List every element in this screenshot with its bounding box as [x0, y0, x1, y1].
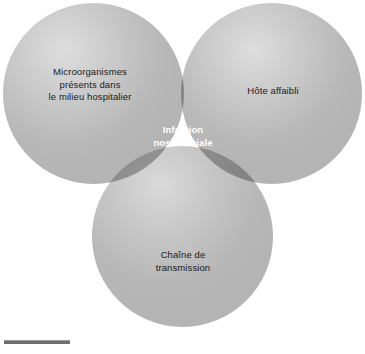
venn-diagram-figure: Microorganismes présents dans le milieu …	[0, 0, 365, 354]
figure-caption-rule	[4, 340, 70, 344]
venn-label-infection-nosocomiale: Infection nosocomiale	[133, 124, 233, 149]
venn-label-hote-affaibli: Hôte affaibli	[208, 85, 338, 98]
venn-circle-chaine-transmission	[92, 146, 273, 327]
venn-label-microorganismes: Microorganismes présents dans le milieu …	[12, 66, 168, 104]
venn-circles-stage	[0, 0, 365, 334]
venn-label-chaine-transmission: Chaîne de transmission	[123, 249, 243, 274]
